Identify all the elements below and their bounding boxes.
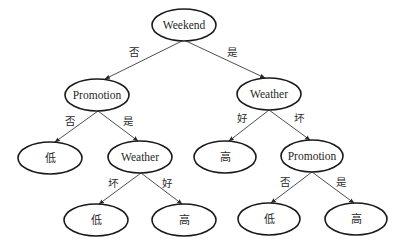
node-label: Weather — [121, 151, 159, 163]
edge-label: 否 — [65, 115, 76, 127]
edge-label: 是 — [123, 115, 134, 127]
edge-label: 否 — [129, 46, 140, 58]
node-label: Weather — [250, 88, 288, 100]
edge-label: 好 — [162, 177, 173, 189]
node-label: 低 — [45, 152, 56, 165]
decision-tree-diagram: 否是否是好坏坏好否是 WeekendPromotionWeather低Weath… — [0, 0, 402, 252]
decision-node-root: Weekend — [152, 9, 216, 41]
leaf-node-leaf_low_1: 低 — [18, 142, 82, 174]
node-label: 低 — [264, 213, 275, 226]
decision-node-promo_right: Promotion — [281, 140, 343, 172]
leaf-node-leaf_low_2: 低 — [64, 204, 128, 236]
edge-arrow-line — [55, 111, 98, 142]
edge-arrow-line — [229, 110, 269, 141]
edge-label: 是 — [336, 176, 347, 188]
edge-arrow-line — [312, 172, 354, 203]
decision-node-weather_mid: Weather — [108, 141, 172, 173]
tree-edge-weather_right-to-leaf_high_1: 好 — [229, 110, 269, 141]
tree-edge-root-to-weather_right: 是 — [186, 41, 265, 78]
leaf-node-leaf_high_2: 高 — [152, 204, 216, 236]
node-label: Weekend — [163, 19, 206, 31]
tree-edge-promo_left-to-weather_mid: 是 — [98, 111, 138, 141]
node-label: 高 — [220, 150, 231, 164]
tree-edge-weather_right-to-promo_right: 坏 — [269, 110, 310, 140]
edges-layer: 否是否是好坏坏好否是 — [55, 41, 354, 204]
node-label: Promotion — [288, 150, 337, 162]
tree-edge-weather_mid-to-leaf_high_2: 好 — [141, 173, 182, 204]
node-label: Promotion — [73, 89, 122, 101]
leaf-node-leaf_high_1: 高 — [194, 141, 256, 173]
edge-label: 好 — [237, 112, 248, 124]
edge-label: 坏 — [294, 112, 305, 124]
edge-label: 是 — [227, 46, 238, 58]
tree-edge-promo_right-to-leaf_low_3: 否 — [271, 172, 312, 203]
edge-arrow-line — [186, 41, 265, 78]
tree-edge-root-to-promo_left: 否 — [105, 41, 182, 79]
edge-arrow-line — [99, 173, 141, 204]
node-label: 高 — [351, 212, 362, 226]
decision-node-promo_left: Promotion — [65, 79, 129, 111]
leaf-node-leaf_low_3: 低 — [238, 203, 300, 235]
node-label: 高 — [179, 213, 190, 227]
edge-arrow-line — [105, 41, 182, 79]
edge-label: 坏 — [108, 177, 119, 189]
tree-edge-promo_left-to-leaf_low_1: 否 — [55, 111, 98, 142]
tree-edge-weather_mid-to-leaf_low_2: 坏 — [99, 173, 141, 204]
decision-node-weather_right: Weather — [237, 78, 301, 110]
edge-label: 否 — [280, 176, 291, 188]
edge-arrow-line — [271, 172, 312, 203]
leaf-node-leaf_high_3: 高 — [325, 203, 387, 235]
node-label: 低 — [91, 214, 102, 227]
tree-edge-promo_right-to-leaf_high_3: 是 — [312, 172, 354, 203]
